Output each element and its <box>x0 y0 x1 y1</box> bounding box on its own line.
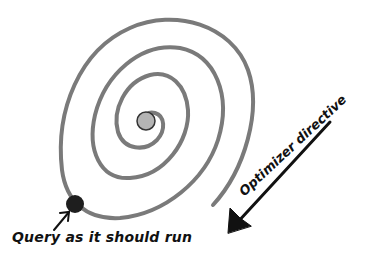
query-arrow-icon <box>54 212 69 230</box>
spiral-diagram <box>0 0 378 265</box>
center-ball-icon <box>137 112 155 130</box>
optimizer-arrow-icon <box>228 122 330 233</box>
query-ball-icon <box>66 195 84 213</box>
spiral-path <box>61 20 253 218</box>
query-label: Query as it should run <box>12 229 192 245</box>
